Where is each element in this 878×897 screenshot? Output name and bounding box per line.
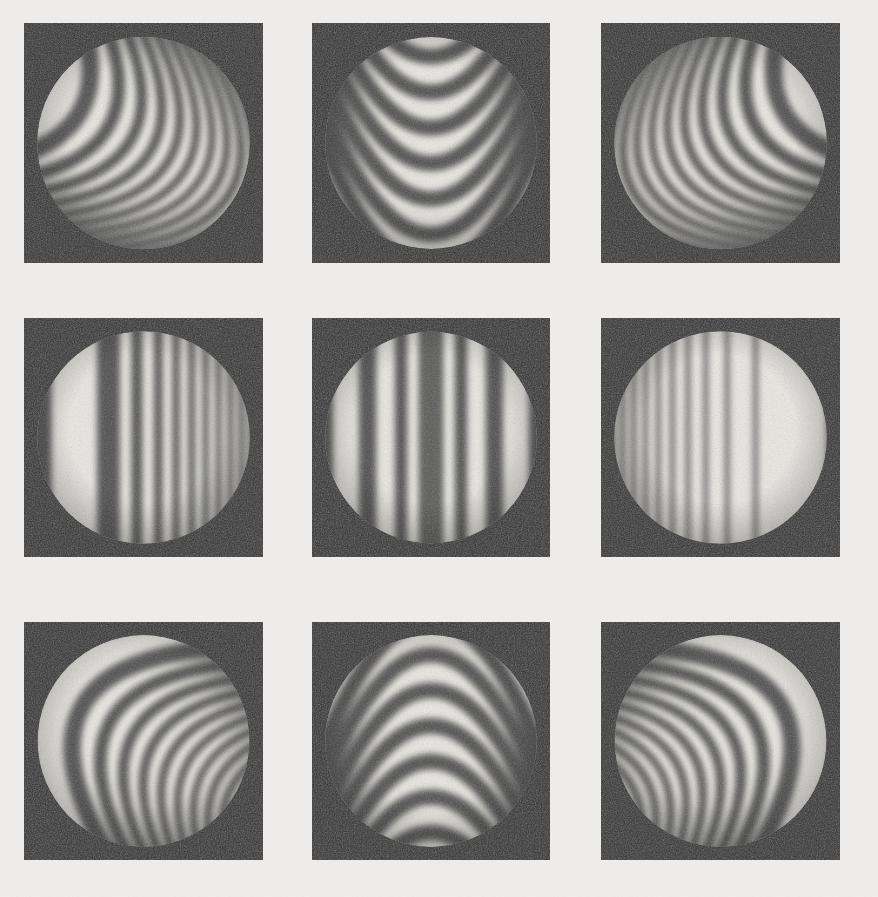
interferogram-image: [312, 23, 550, 263]
interferogram-image: [601, 318, 840, 557]
interferogram-panel-bottom-right: [601, 622, 840, 860]
interferogram-image: [312, 318, 550, 557]
interferogram-image: [24, 23, 263, 263]
interferogram-image: [24, 622, 263, 860]
interferogram-panel-top-left: [24, 23, 263, 263]
interferogram-panel-top-right: [601, 23, 840, 263]
interferogram-image: [24, 318, 263, 557]
interferogram-panel-middle-center: [312, 318, 550, 557]
interferogram-panel-top-center: [312, 23, 550, 263]
interferogram-figure: [0, 0, 878, 897]
panel-grid: [0, 0, 878, 897]
interferogram-image: [601, 23, 840, 263]
interferogram-image: [601, 622, 840, 860]
interferogram-panel-middle-right: [601, 318, 840, 557]
interferogram-panel-bottom-left: [24, 622, 263, 860]
interferogram-panel-bottom-center: [312, 622, 550, 860]
interferogram-image: [312, 622, 550, 860]
interferogram-panel-middle-left: [24, 318, 263, 557]
